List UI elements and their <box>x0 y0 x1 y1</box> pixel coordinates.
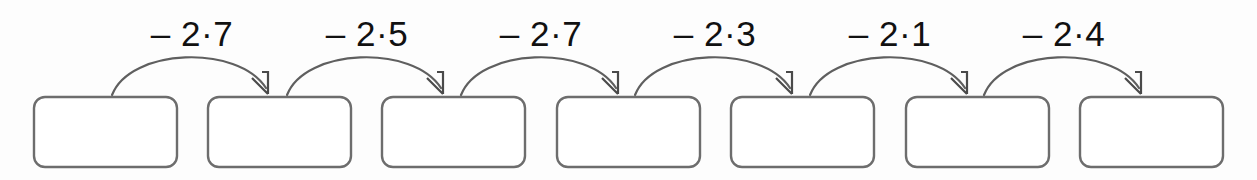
arrow-curve-3 <box>461 57 616 95</box>
subtraction-chain-worksheet: – 2·7 – 2·5 – 2·7 – 2·3 – 2·1 <box>0 0 1257 180</box>
answer-box-1[interactable] <box>34 97 177 167</box>
arrow-curve-1 <box>112 57 266 95</box>
arrow-group-4: – 2·3 <box>635 14 792 95</box>
arrow-label-1: – 2·7 <box>151 14 233 53</box>
answer-box-2[interactable] <box>208 97 351 167</box>
arrow-curve-6 <box>984 57 1139 95</box>
answer-box-6[interactable] <box>906 97 1049 167</box>
arrow-curve-5 <box>810 57 965 95</box>
arrow-group-3: – 2·7 <box>461 14 618 95</box>
arrow-label-4: – 2·3 <box>674 14 756 53</box>
answer-box-5[interactable] <box>731 97 874 167</box>
arrow-label-3: – 2·7 <box>500 14 582 53</box>
chain-diagram: – 2·7 – 2·5 – 2·7 – 2·3 – 2·1 <box>0 0 1257 180</box>
arrow-group-2: – 2·5 <box>287 14 443 95</box>
arrow-curve-2 <box>287 57 441 95</box>
arrow-label-6: – 2·4 <box>1023 14 1105 53</box>
arrow-group-6: – 2·4 <box>984 14 1141 95</box>
arrow-label-5: – 2·1 <box>849 14 931 53</box>
arrow-group-1: – 2·7 <box>112 14 268 95</box>
answer-box-4[interactable] <box>557 97 700 167</box>
answer-box-3[interactable] <box>382 97 525 167</box>
arrow-curve-4 <box>635 57 790 95</box>
arrow-label-2: – 2·5 <box>326 14 408 53</box>
answer-box-7[interactable] <box>1080 97 1223 167</box>
arrow-group-5: – 2·1 <box>810 14 967 95</box>
